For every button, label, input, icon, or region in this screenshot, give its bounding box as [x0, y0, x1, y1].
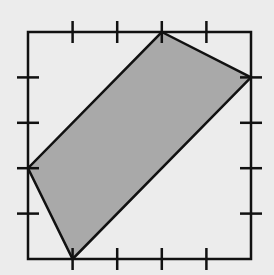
geometry-diagram: [0, 0, 274, 275]
